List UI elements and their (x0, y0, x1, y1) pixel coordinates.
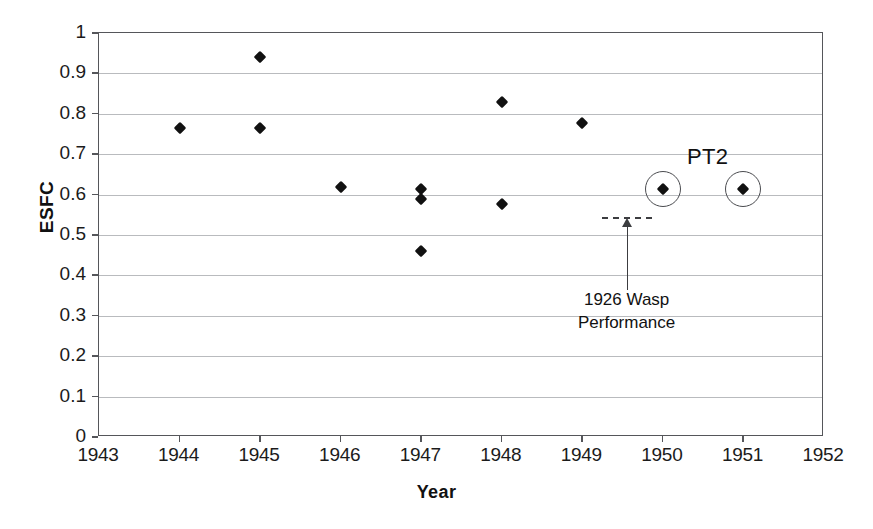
gridline (99, 195, 822, 196)
y-axis-tick-label: 0.3 (26, 304, 86, 326)
y-axis-tick-label: 0.4 (26, 263, 86, 285)
x-axis-tick-label: 1946 (300, 444, 380, 466)
y-axis-tick-label: 0.2 (26, 344, 86, 366)
x-axis-tick-label: 1950 (622, 444, 702, 466)
x-axis-title: Year (0, 482, 873, 503)
x-axis-tick-mark (340, 436, 342, 442)
chart-figure: ESFC 00.10.20.30.40.50.60.70.80.91 PT219… (0, 0, 873, 529)
wasp-arrow-shaft (627, 223, 629, 290)
y-axis-tick-label: 0.5 (26, 223, 86, 245)
x-axis-tick-mark (742, 436, 744, 442)
x-axis-tick-label: 1944 (139, 444, 219, 466)
x-axis-tick-label: 1948 (461, 444, 541, 466)
data-point-marker (254, 122, 267, 135)
y-axis-tick-label: 0.1 (26, 385, 86, 407)
x-axis-tick-mark (501, 436, 503, 442)
gridline (99, 397, 822, 398)
data-point-marker (173, 122, 186, 135)
data-point-marker (415, 245, 428, 258)
x-axis-tick-label: 1947 (380, 444, 460, 466)
data-point-marker (495, 198, 508, 211)
x-axis-tick-mark (581, 436, 583, 442)
y-axis-tick-label: 0.6 (26, 183, 86, 205)
plot-area: PT21926 WaspPerformance (98, 32, 823, 436)
pt2-annotation-label: PT2 (687, 144, 728, 170)
y-axis-tick-label: 0.8 (26, 102, 86, 124)
x-axis-tick-label: 1943 (58, 444, 138, 466)
data-point-marker (254, 51, 267, 64)
x-axis-tick-mark (662, 436, 664, 442)
gridline (99, 235, 822, 236)
x-axis-tick-label: 1945 (219, 444, 299, 466)
data-point-marker (576, 116, 589, 129)
wasp-annotation-line-1: 1926 Wasp (527, 288, 727, 311)
y-axis-tick-label: 0.7 (26, 142, 86, 164)
data-point-marker (495, 96, 508, 109)
gridline (99, 73, 822, 74)
gridline (99, 275, 822, 276)
x-axis-tick-label: 1952 (783, 444, 863, 466)
x-axis-tick-label: 1949 (541, 444, 621, 466)
x-axis-tick-mark (420, 436, 422, 442)
y-axis-tick-label: 1 (26, 21, 86, 43)
gridline (99, 114, 822, 115)
y-axis-tick-label: 0.9 (26, 61, 86, 83)
x-axis-tick-label: 1951 (702, 444, 782, 466)
gridline (99, 356, 822, 357)
x-axis-tick-mark (259, 436, 261, 442)
wasp-arrow-head (622, 218, 632, 227)
x-axis-tick-mark (179, 436, 181, 442)
wasp-annotation-line-2: Performance (527, 311, 727, 334)
wasp-annotation-text: 1926 WaspPerformance (527, 288, 727, 334)
y-axis-tick-mark (92, 436, 98, 438)
data-point-marker (334, 181, 347, 194)
